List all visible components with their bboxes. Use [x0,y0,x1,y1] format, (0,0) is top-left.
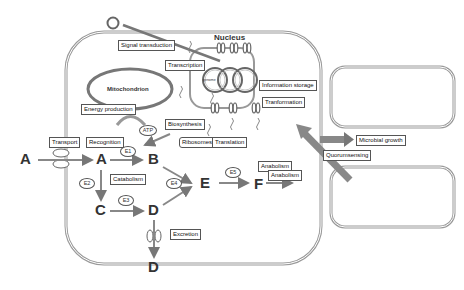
label-atp: ATP [139,125,157,136]
metabolite-c: C [95,201,106,218]
label-quorumsensing: Quorumsensing [323,150,371,161]
mitochondrion-label: Mitochondrion [107,86,149,92]
metabolite-e: E [200,174,210,191]
nucleus-envelope [190,48,254,108]
label-signal-transduction: Signal transduction [118,40,175,51]
label-excretion: Excretion [170,229,201,240]
label-transport: Transport [49,137,80,148]
enzyme-e5: E5 [225,167,241,178]
metabolite-a-inside: A [96,150,107,167]
atp-synthase-arc [117,117,145,126]
neighbor-cell-top [331,67,454,127]
label-ribosomes: Ribosomes [179,137,215,148]
enzyme-e2: E2 [79,178,95,189]
label-biosynthesis: Biosynthesis [165,119,205,130]
enzyme-e4: E4 [166,178,182,189]
enzyme-e3: E3 [118,195,134,206]
label-tranformation: Tranformation [262,97,305,108]
label-catabolism: Catabolism [110,174,146,185]
nucleus-label: Nucleus [214,33,245,42]
label-transcription: Transcription [165,60,205,71]
label-translation: Translation [212,137,247,148]
microbial-growth-arrow [320,132,354,147]
label-recognition: Recognition [86,137,124,148]
metabolite-d-outside: D [148,258,159,275]
label-microbial-growth: Microbial growth [356,135,406,146]
signal-molecule [108,18,119,29]
enzyme-e1: E1 [120,146,136,157]
label-information-storage: Information storage [259,80,317,91]
metabolite-b: B [148,150,159,167]
label-energy-production: Energy production [81,104,136,115]
label-anabolism-2: Anabolism [268,170,302,181]
genome-label: genome [203,78,216,82]
metabolite-a-outside: A [20,150,31,167]
metabolite-d-inside: D [148,201,159,218]
pathway-arrows [38,134,292,257]
metabolite-f: F [254,175,263,192]
